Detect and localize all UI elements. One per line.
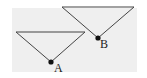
support-a-right-string (51, 32, 85, 62)
diagram-canvas: A B (0, 0, 147, 78)
support-a: A (16, 32, 85, 75)
support-b-left-string (62, 7, 98, 38)
point-a-label: A (54, 61, 63, 75)
point-a-dot (48, 59, 53, 64)
support-b: B (62, 7, 134, 51)
diagram-svg: A B (0, 0, 147, 78)
point-b-label: B (100, 37, 108, 51)
support-a-left-string (16, 32, 51, 62)
support-b-right-string (98, 7, 134, 38)
